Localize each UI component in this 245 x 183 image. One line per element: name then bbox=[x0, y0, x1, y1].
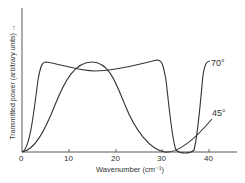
curve-70deg bbox=[22, 60, 210, 153]
x-tick-40: 40 bbox=[204, 154, 213, 163]
chart: 70° 45° 0 10 20 30 40 Wavenumber (cm⁻¹) … bbox=[0, 0, 245, 183]
x-axis-title: Wavenumber (cm⁻¹) bbox=[96, 165, 164, 174]
x-tick-10: 10 bbox=[64, 154, 73, 163]
curve-45deg bbox=[22, 62, 212, 152]
label-45deg: 45° bbox=[212, 108, 226, 118]
y-axis-title: Transmitted power (arbitrary units) → bbox=[9, 24, 17, 140]
label-70deg: 70° bbox=[211, 58, 225, 68]
x-tick-20: 20 bbox=[111, 154, 120, 163]
x-tick-0: 0 bbox=[19, 154, 24, 163]
x-tick-30: 30 bbox=[157, 154, 166, 163]
